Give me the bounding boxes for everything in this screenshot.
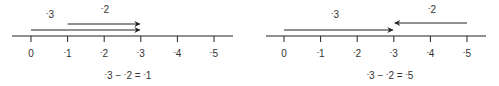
- tick-label: -2: [100, 48, 108, 59]
- tick-label: -3: [137, 48, 145, 59]
- equation: -3 − -2 = -5: [367, 70, 414, 81]
- tick-label: -4: [173, 48, 181, 59]
- number-line-diagram: 0-1-2-3-4-5-3-2-3 − -2 = -1 0-1-2-3-4-5-…: [0, 0, 499, 86]
- tick-label: -5: [463, 48, 471, 59]
- tick-label: -1: [317, 48, 325, 59]
- tick-label: 0: [28, 48, 34, 59]
- right-number-line-panel: 0-1-2-3-4-5-3-2-3 − -2 = -5: [266, 4, 486, 81]
- tick-label: 0: [281, 48, 287, 59]
- tick-label: -1: [64, 48, 72, 59]
- tick-label: -4: [426, 48, 434, 59]
- arrow-label: -2: [101, 4, 109, 15]
- left-number-line-panel: 0-1-2-3-4-5-3-2-3 − -2 = -1: [12, 4, 233, 81]
- arrow-label: -3: [331, 9, 339, 20]
- arrow-label: -2: [428, 4, 436, 15]
- arrow-label: -3: [46, 9, 54, 20]
- tick-label: -5: [210, 48, 218, 59]
- equation: -3 − -2 = -1: [105, 70, 152, 81]
- tick-label: -2: [353, 48, 361, 59]
- tick-label: -3: [390, 48, 398, 59]
